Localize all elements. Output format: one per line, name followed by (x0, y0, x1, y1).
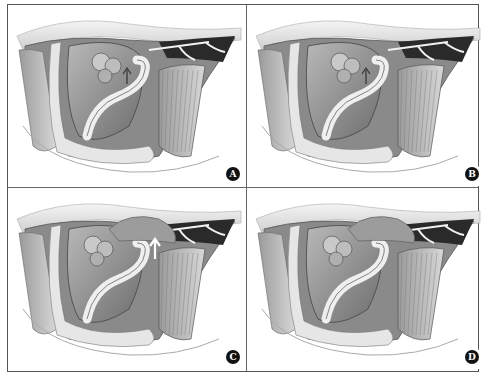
illustration-a (9, 6, 245, 186)
panel-label-b: B (465, 167, 479, 181)
masseter-muscle (159, 65, 205, 157)
vertical-divider (246, 5, 247, 371)
panel-b: B (248, 6, 484, 186)
panel-a: A (9, 6, 245, 186)
panel-d: D (248, 189, 484, 369)
masseter-muscle (159, 248, 205, 340)
lobule (98, 69, 112, 83)
horizontal-divider (8, 187, 478, 188)
panel-label-c: C (226, 350, 240, 364)
lobule (329, 252, 343, 266)
masseter-muscle (398, 248, 444, 340)
panel-label-d: D (465, 350, 479, 364)
masseter-muscle (398, 65, 444, 157)
illustration-b (248, 6, 484, 186)
panel-c: C (9, 189, 245, 369)
figure-grid: A B C D (7, 4, 479, 372)
lobule (90, 252, 104, 266)
panel-label-a: A (226, 167, 240, 181)
illustration-c (9, 189, 245, 369)
lobule (337, 69, 351, 83)
illustration-d (248, 189, 484, 369)
